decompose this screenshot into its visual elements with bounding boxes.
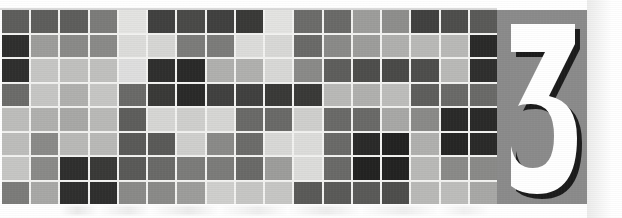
mosaic-tile <box>470 10 497 33</box>
mosaic-tile <box>60 84 87 107</box>
mosaic-tile <box>470 133 497 156</box>
mosaic-tile <box>90 84 117 107</box>
mosaic-tile <box>441 59 468 82</box>
mosaic-tile <box>324 84 351 107</box>
mosaic-tile <box>236 59 263 82</box>
mosaic-tile <box>60 59 87 82</box>
mosaic-tile <box>382 59 409 82</box>
mosaic-tile <box>148 10 175 33</box>
mosaic-tile <box>2 108 29 131</box>
mosaic-tile <box>119 35 146 58</box>
mosaic-tile <box>90 10 117 33</box>
mosaic-tile <box>324 59 351 82</box>
mosaic-tile <box>236 35 263 58</box>
mosaic-tile <box>236 182 263 205</box>
mosaic-tile <box>207 157 234 180</box>
mosaic-tile <box>470 35 497 58</box>
mosaic-tile <box>207 182 234 205</box>
mosaic-tile <box>31 157 58 180</box>
chapter-number-glyph: Chapter 3 <box>497 10 587 204</box>
mosaic-tile <box>31 10 58 33</box>
mosaic-tile <box>411 84 438 107</box>
mosaic-tile <box>177 59 204 82</box>
mosaic-tile <box>324 108 351 131</box>
mosaic-tile <box>236 157 263 180</box>
mosaic-tile <box>294 133 321 156</box>
mosaic-tile <box>177 10 204 33</box>
mosaic-tile <box>382 133 409 156</box>
mosaic-tile <box>60 108 87 131</box>
mosaic-tile <box>265 157 292 180</box>
mosaic-tile <box>470 59 497 82</box>
mosaic-tile <box>265 10 292 33</box>
mosaic-tile <box>177 182 204 205</box>
mosaic-tile <box>470 108 497 131</box>
mosaic-tile <box>236 108 263 131</box>
mosaic-tile <box>207 133 234 156</box>
mosaic-tile <box>294 157 321 180</box>
mosaic-tile <box>411 182 438 205</box>
mosaic-tile <box>207 59 234 82</box>
mosaic-tile <box>441 10 468 33</box>
mosaic-tile <box>470 157 497 180</box>
mosaic-tile <box>148 157 175 180</box>
mosaic-tile <box>31 84 58 107</box>
mosaic-tile <box>382 182 409 205</box>
page-edge-gradient <box>587 0 622 218</box>
mosaic-tile <box>353 108 380 131</box>
mosaic-tile <box>90 35 117 58</box>
mosaic-tile <box>470 182 497 205</box>
mosaic-tile <box>294 59 321 82</box>
mosaic-tile <box>353 59 380 82</box>
mosaic-tile <box>265 133 292 156</box>
mosaic-tile <box>60 133 87 156</box>
mosaic-tile <box>236 10 263 33</box>
mosaic-tile <box>441 84 468 107</box>
mosaic-tile <box>324 133 351 156</box>
mosaic-tile <box>382 157 409 180</box>
mosaic-tile <box>31 59 58 82</box>
mosaic-tile <box>441 157 468 180</box>
mosaic-tile <box>265 182 292 205</box>
mosaic-tile <box>411 35 438 58</box>
mosaic-tile <box>265 59 292 82</box>
mosaic-tile <box>294 108 321 131</box>
mosaic-tile <box>90 182 117 205</box>
mosaic-tile <box>382 84 409 107</box>
mosaic-tile <box>324 157 351 180</box>
mosaic-tile <box>382 35 409 58</box>
mosaic-tile <box>353 157 380 180</box>
mosaic-tile <box>31 133 58 156</box>
mosaic-tile <box>265 35 292 58</box>
mosaic-tile <box>148 133 175 156</box>
mosaic-tile <box>353 10 380 33</box>
mosaic-tile <box>411 59 438 82</box>
mosaic-tile <box>470 84 497 107</box>
mosaic-tile <box>177 84 204 107</box>
mosaic-tile <box>31 108 58 131</box>
mosaic-tile <box>177 35 204 58</box>
mosaic-tile <box>441 108 468 131</box>
mosaic-tile <box>148 59 175 82</box>
mosaic-tile <box>2 59 29 82</box>
mosaic-tile <box>324 35 351 58</box>
mosaic-tile <box>236 84 263 107</box>
mosaic-tile <box>90 59 117 82</box>
mosaic-tile <box>411 10 438 33</box>
mosaic-tile <box>382 108 409 131</box>
mosaic-tile <box>294 182 321 205</box>
mosaic-tile <box>2 182 29 205</box>
mosaic-tile <box>324 182 351 205</box>
mosaic-tile <box>411 133 438 156</box>
mosaic-tile <box>60 182 87 205</box>
mosaic-tile <box>2 133 29 156</box>
mosaic-tile <box>60 35 87 58</box>
scan-smudge <box>60 206 490 215</box>
mosaic-tile <box>119 182 146 205</box>
mosaic-tile <box>119 133 146 156</box>
mosaic-tile <box>207 35 234 58</box>
mosaic-tile <box>353 35 380 58</box>
mosaic-tile <box>353 84 380 107</box>
mosaic-tile <box>207 84 234 107</box>
mosaic-tile <box>353 133 380 156</box>
